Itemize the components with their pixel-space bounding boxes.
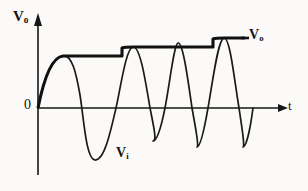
x-axis	[38, 104, 288, 112]
x-axis-arrowhead	[278, 104, 288, 112]
output-curve-label: Vo	[249, 28, 263, 42]
y-axis-label: Vo	[13, 9, 29, 25]
x-axis-label: t	[288, 99, 292, 112]
input-curve-label: Vi	[116, 146, 129, 160]
y-axis-arrowhead	[34, 13, 42, 26]
origin-label: 0	[24, 98, 31, 112]
waveform-figure: Vo 0 t Vo Vi	[0, 0, 308, 191]
